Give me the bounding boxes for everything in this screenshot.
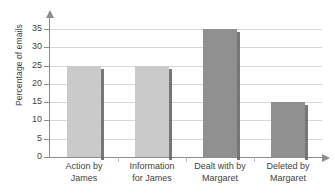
y-tick-label: 25	[12, 61, 42, 70]
bar-body	[203, 29, 237, 157]
bar-body	[135, 66, 169, 157]
gridline	[50, 29, 322, 30]
x-axis-label-line1: Information	[129, 161, 174, 171]
bar	[271, 102, 305, 157]
x-axis-label-line1: Dealt with by	[194, 161, 246, 171]
bar-shadow	[237, 32, 240, 160]
bar-shadow	[305, 105, 308, 160]
x-axis-label-line2: for James	[118, 173, 186, 185]
x-axis-label: Informationfor James	[118, 161, 186, 184]
bar-body	[67, 66, 101, 157]
gridline	[50, 47, 322, 48]
y-tick-label: 30	[12, 42, 42, 51]
x-axis-label: Deleted byMargaret	[254, 161, 322, 184]
bar-body	[271, 102, 305, 157]
y-tick-label: 20	[12, 79, 42, 88]
y-tick-label: 35	[12, 24, 42, 33]
bar	[203, 29, 237, 157]
y-tick-label: 0	[12, 152, 42, 161]
y-axis-arrow-icon	[46, 10, 54, 18]
bar-chart: Percentage of emails 05101520253035 Acti…	[0, 0, 335, 194]
bar	[67, 66, 101, 157]
x-axis-label-line1: Action by	[65, 161, 102, 171]
y-tick-label: 10	[12, 115, 42, 124]
x-axis-label-line1: Deleted by	[266, 161, 309, 171]
bar-shadow	[101, 69, 104, 160]
y-tick-label: 15	[12, 97, 42, 106]
x-axis-label: Action byJames	[50, 161, 118, 184]
plot-area	[50, 29, 322, 157]
x-axis-label-line2: James	[50, 173, 118, 185]
x-axis-label: Dealt with byMargaret	[186, 161, 254, 184]
x-axis-label-line2: Margaret	[254, 173, 322, 185]
bar	[135, 66, 169, 157]
x-axis-label-line2: Margaret	[186, 173, 254, 185]
y-tick-label: 5	[12, 134, 42, 143]
x-axis-arrow-icon	[322, 154, 330, 162]
bar-shadow	[169, 69, 172, 160]
